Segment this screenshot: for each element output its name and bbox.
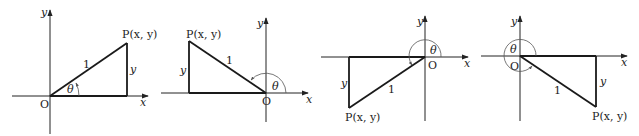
y-axis-label: y [256, 17, 264, 30]
point-label: P(x, y) [186, 28, 221, 41]
angle-label: θ [67, 83, 74, 96]
y-axis-label: y [40, 6, 48, 19]
hypotenuse-label: 1 [554, 84, 561, 97]
x-axis-label: x [306, 93, 313, 106]
origin-label: O [428, 59, 437, 72]
hypotenuse-label: 1 [83, 58, 90, 71]
hypotenuse [349, 57, 425, 108]
angle-arc [251, 73, 286, 93]
y-axis-label: y [416, 15, 424, 28]
x-axis-label: x [621, 56, 628, 69]
unit-circle-quadrant-diagrams: y x O P(x, y) 1 y θ y x O P(x, y) 1 y θ … [0, 0, 639, 136]
diagram-quadrant-2: y x O P(x, y) 1 y θ [161, 17, 313, 122]
hypotenuse-label: 1 [226, 54, 233, 67]
angle-label: θ [272, 80, 279, 93]
angle-label: θ [430, 44, 437, 57]
diagram-quadrant-3: y x O P(x, y) 1 y θ [321, 15, 471, 124]
point-label: P(x, y) [592, 110, 627, 123]
hypotenuse [520, 56, 596, 107]
origin-label: O [262, 95, 271, 108]
hypotenuse [189, 41, 266, 93]
diagram-quadrant-1: y x O P(x, y) 1 y θ [12, 6, 157, 134]
point-label: P(x, y) [345, 111, 380, 124]
y-axis-label: y [510, 15, 518, 28]
x-axis-label: x [464, 57, 471, 70]
origin-label: O [40, 98, 49, 111]
side-label: y [129, 63, 137, 76]
x-axis-label: x [140, 96, 147, 109]
angle-arc [76, 83, 79, 96]
origin-label: O [510, 60, 519, 73]
angle-label: θ [510, 43, 517, 56]
side-label: y [340, 77, 348, 90]
hypotenuse-label: 1 [388, 83, 395, 96]
point-label: P(x, y) [122, 28, 157, 41]
side-label: y [599, 75, 607, 88]
side-label: y [179, 64, 187, 77]
diagram-quadrant-4: y x O P(x, y) 1 y θ [481, 15, 628, 123]
